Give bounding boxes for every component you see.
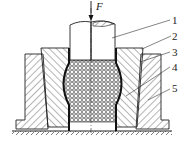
- part-label-1: 1: [172, 14, 178, 26]
- elastic-medium: [64, 60, 122, 122]
- part-label-3: 3: [172, 46, 178, 58]
- force-arrow-icon: [89, 1, 94, 21]
- punch: [70, 21, 115, 60]
- part-label-2: 2: [172, 30, 178, 42]
- part-label-4: 4: [172, 61, 178, 73]
- bulging-die-diagram: F 1 2 3 4 5: [0, 0, 189, 156]
- force-label: F: [95, 0, 103, 12]
- ground-base: [12, 131, 172, 135]
- part-label-5: 5: [172, 82, 178, 94]
